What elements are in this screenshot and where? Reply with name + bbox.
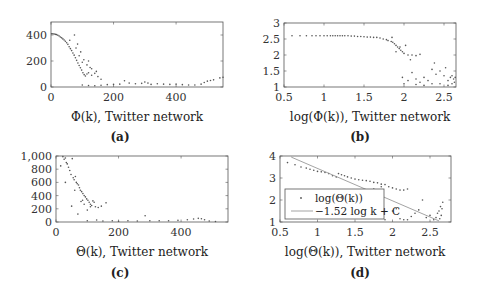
data-point [425,217,427,219]
x-tick-label: 2 [401,91,408,104]
data-point [111,220,113,222]
data-point [342,35,344,37]
x-tick-label: 2.5 [421,226,439,239]
x-tick-label: 400 [171,226,192,239]
data-point [194,84,196,86]
data-point [78,65,80,67]
data-point [439,70,441,72]
data-point [213,79,215,81]
data-point [82,72,84,74]
legend-entry-points: log(Θ(k)) [315,192,363,204]
y-tick-label: 2 [269,194,276,207]
data-point [144,215,146,217]
data-point [334,35,336,37]
data-point [435,73,437,75]
data-point [326,35,328,37]
data-point [87,199,89,201]
data-point [431,69,433,71]
data-point [66,163,68,165]
data-point [75,57,77,59]
panel-c: 020040002004006008001,000 Θ(k), Twitter … [21,150,229,280]
data-point [440,206,442,208]
data-point [445,67,447,69]
data-point [86,220,88,222]
y-tick-label: 800 [31,163,52,176]
data-point [427,80,429,82]
data-point [439,218,441,220]
data-point [83,74,85,76]
data-point [402,77,404,79]
data-point [399,218,401,220]
data-point [380,186,382,188]
data-point [299,35,301,37]
data-point [65,182,67,184]
data-point [71,205,73,207]
data-point [147,82,149,84]
data-point [407,219,409,221]
panel-b-frame [284,23,456,87]
data-point [163,83,165,85]
panel-c-ticks: 020040002004006008001,000 [21,150,229,239]
data-point [81,69,83,71]
y-tick-label: 1,000 [21,150,53,163]
data-point [415,84,417,86]
data-point [95,206,97,208]
data-point [93,201,95,203]
data-point [82,193,84,195]
data-point [75,176,77,178]
data-point [339,35,341,37]
data-point [81,62,83,64]
data-point [90,203,92,205]
y-tick-label: 400 [31,190,52,203]
data-point [440,215,442,217]
data-point [306,35,308,37]
data-point [100,78,102,80]
data-point [208,220,210,222]
data-point [447,85,449,87]
data-point [380,183,382,185]
data-point [96,71,98,73]
data-point [419,54,421,56]
data-point [91,205,93,207]
data-point [388,186,390,188]
data-point [370,36,372,38]
data-point [71,158,73,160]
data-point [68,46,70,48]
data-point [85,75,87,77]
data-point [210,80,212,82]
data-point [377,182,379,184]
data-point [81,84,83,86]
data-point [97,76,99,78]
panel-a-xlabel: Φ(k), Twitter network [71,110,204,124]
data-point [80,201,82,203]
data-point [407,188,409,190]
data-point [78,184,80,186]
y-tick-label: 1 [269,216,276,229]
panel-b-points [291,35,456,86]
x-tick-label: 1.5 [355,91,373,104]
data-point [354,178,356,180]
data-point [86,198,88,200]
data-point [395,188,397,190]
data-point [403,83,405,85]
data-point [418,209,420,211]
data-point [441,208,443,210]
panel-c-label: (c) [111,266,130,280]
data-point [400,49,402,51]
data-point [157,83,159,85]
data-point [344,35,346,37]
data-point [75,47,77,49]
data-point [350,35,352,37]
data-point [287,162,289,164]
data-point [200,83,202,85]
data-point [119,83,121,85]
data-point [60,165,62,167]
data-point [204,219,206,221]
data-point [311,35,313,37]
data-point [127,220,129,222]
data-point [188,84,190,86]
data-point [294,164,296,166]
data-point [88,201,90,203]
data-point [219,77,221,79]
data-point [69,39,71,41]
